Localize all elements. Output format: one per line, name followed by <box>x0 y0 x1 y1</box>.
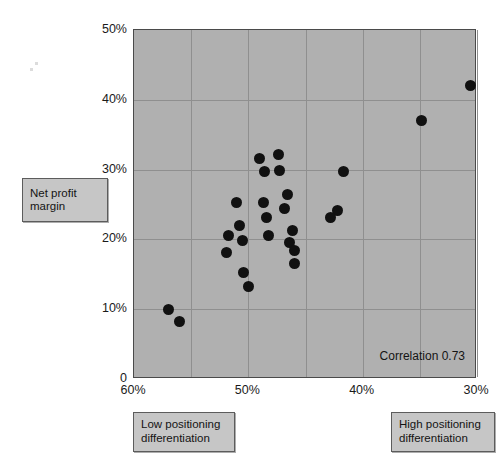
high-differentiation-line2: differentiation <box>399 432 487 446</box>
x-tick-label: 50% <box>227 384 267 396</box>
data-point <box>273 149 284 160</box>
data-point <box>274 165 285 176</box>
y-axis-label-line2: margin <box>30 200 77 214</box>
data-point <box>254 153 265 164</box>
scan-speck <box>30 68 33 71</box>
scan-speck <box>35 62 38 65</box>
high-differentiation-callout: High positioning differentiation <box>391 412 495 452</box>
horizontal-gridline <box>134 239 475 240</box>
y-tick-label: 50% <box>81 23 127 35</box>
data-point <box>231 197 242 208</box>
y-tick-label: 30% <box>81 163 127 175</box>
data-point <box>279 203 290 214</box>
correlation-annotation: Correlation 0.73 <box>380 349 465 363</box>
data-point <box>163 304 174 315</box>
plot-area: Correlation 0.73 <box>133 29 476 378</box>
horizontal-gridline <box>134 170 475 171</box>
data-point <box>174 316 185 327</box>
y-tick-label: 20% <box>81 232 127 244</box>
data-point <box>261 212 272 223</box>
y-tick-label: 40% <box>81 93 127 105</box>
data-point <box>338 166 349 177</box>
y-axis-label-callout: Net profit margin <box>22 178 108 222</box>
scatter-plot-figure: Correlation 0.73 50%40%30%20%10%0 60%50%… <box>0 0 504 464</box>
data-point <box>289 245 300 256</box>
vertical-gridline <box>420 30 421 377</box>
vertical-gridline <box>248 30 249 377</box>
y-tick-label: 10% <box>81 302 127 314</box>
horizontal-gridline <box>134 309 475 310</box>
low-differentiation-line2: differentiation <box>141 432 227 446</box>
data-point <box>237 235 248 246</box>
x-tick-label: 30% <box>456 384 496 396</box>
data-point <box>325 212 336 223</box>
horizontal-gridline <box>134 100 475 101</box>
data-point <box>282 189 293 200</box>
low-differentiation-line1: Low positioning <box>141 418 227 432</box>
y-axis-label-line1: Net profit <box>30 187 77 201</box>
data-point <box>238 267 249 278</box>
data-point <box>243 281 254 292</box>
data-point <box>258 197 269 208</box>
high-differentiation-line1: High positioning <box>399 418 487 432</box>
vertical-gridline <box>306 30 307 377</box>
x-tick-label: 40% <box>342 384 382 396</box>
data-point <box>465 80 476 91</box>
vertical-gridline <box>477 30 478 377</box>
data-point <box>259 166 270 177</box>
data-point <box>234 220 245 231</box>
data-point <box>287 225 298 236</box>
data-point <box>289 258 300 269</box>
x-tick-label: 60% <box>113 384 153 396</box>
vertical-gridline <box>363 30 364 377</box>
vertical-gridline <box>191 30 192 377</box>
data-point <box>416 115 427 126</box>
data-point <box>221 247 232 258</box>
low-differentiation-callout: Low positioning differentiation <box>133 412 235 452</box>
